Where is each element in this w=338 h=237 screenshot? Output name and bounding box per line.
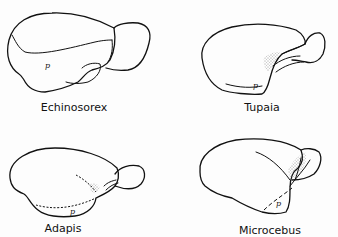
tupaia-brain: p [202, 24, 325, 94]
adapis-p-marker: p [70, 207, 75, 216]
brain-comparison-figure: p p p [0, 0, 338, 237]
echinosorex-p-marker: p [45, 61, 50, 70]
label-tupaia: Tupaia [244, 101, 280, 114]
echinosorex-brain: p [8, 13, 150, 92]
label-microcebus: Microcebus [239, 224, 301, 237]
label-echinosorex: Echinosorex [41, 101, 108, 114]
brain-drawings: p p p [0, 0, 338, 237]
microcebus-p-marker: p [276, 199, 281, 208]
adapis-brain: p [10, 148, 145, 217]
microcebus-brain: p [200, 139, 321, 214]
label-adapis: Adapis [45, 222, 82, 235]
tupaia-p-marker: p [253, 81, 258, 90]
